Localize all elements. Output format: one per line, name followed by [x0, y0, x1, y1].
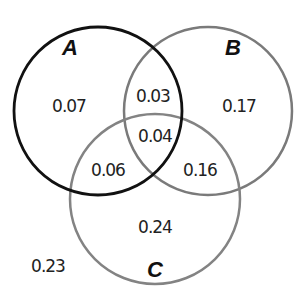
region-outside: 0.23 [31, 256, 65, 276]
region-abc: 0.04 [138, 126, 172, 146]
region-c-only: 0.24 [138, 217, 172, 237]
region-ac: 0.06 [91, 160, 125, 180]
region-bc: 0.16 [183, 160, 217, 180]
region-a-only: 0.07 [52, 96, 86, 116]
region-ab: 0.03 [136, 86, 170, 106]
region-b-only: 0.17 [222, 96, 256, 116]
label-a: A [62, 35, 78, 61]
label-b: B [225, 35, 241, 61]
label-c: C [147, 257, 163, 283]
